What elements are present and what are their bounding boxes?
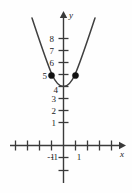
y-tick-label-2: 2: [52, 106, 57, 116]
point-left: [48, 72, 54, 78]
graph-figure: x -1 1 y 8 7 6 5 4 3 2: [0, 0, 132, 193]
y-axis-label: y: [68, 10, 73, 20]
y-tick-label-8: 8: [50, 34, 55, 44]
y-tick-label-5: 5: [43, 71, 48, 81]
x-tick-label-1: 1: [77, 152, 82, 162]
y-tick-label-3: 3: [52, 94, 57, 104]
parabola-plot: x -1 1 y 8 7 6 5 4 3 2: [0, 0, 132, 193]
y-tick-label--1: -1: [51, 152, 59, 162]
y-tick-label-6: 6: [50, 58, 55, 68]
x-axis-group: x -1 1: [10, 141, 126, 163]
point-right: [72, 72, 78, 78]
y-axis-arrow-icon: [60, 11, 67, 18]
y-tick-label-1: 1: [52, 118, 57, 128]
y-tick-label-7: 7: [50, 46, 55, 56]
x-axis-label: x: [119, 149, 124, 159]
